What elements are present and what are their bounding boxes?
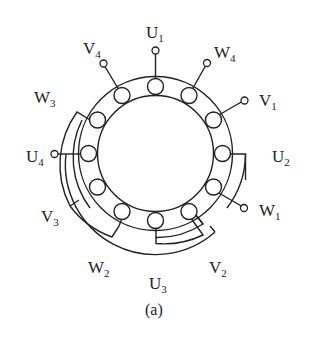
stator-winding-diagram: U1 W4 V1 U2 W1 V2 U3 W2 V3 U4 W3 V4 (a): [0, 0, 312, 337]
label-w3: W3: [34, 88, 56, 109]
terminal-node-v4: [100, 60, 107, 67]
stator-slots: [81, 79, 231, 229]
label-v4: V4: [83, 39, 101, 60]
label-v1: V1: [259, 91, 277, 112]
slot-3: [206, 112, 222, 128]
slot-12: [114, 88, 130, 104]
slot-1: [148, 79, 164, 95]
terminal-node-w1: [241, 205, 248, 212]
outer-ring: [79, 77, 233, 231]
slot-7: [148, 213, 164, 229]
label-w2: W2: [88, 258, 110, 279]
label-v3: V3: [41, 207, 59, 228]
slot-5: [206, 179, 222, 195]
label-w1: W1: [259, 201, 281, 222]
slot-8: [114, 204, 130, 220]
slot-9: [90, 179, 106, 195]
label-u1: U1: [146, 23, 164, 44]
terminal-node-u1: [152, 47, 159, 54]
terminal-node-u4: [51, 151, 58, 158]
slot-4: [215, 146, 231, 162]
label-u3: U3: [149, 274, 167, 295]
label-u2: U2: [272, 147, 290, 168]
label-w4: W4: [214, 43, 236, 64]
slot-11: [90, 112, 106, 128]
label-v2: V2: [209, 258, 227, 279]
slot-10: [81, 146, 97, 162]
terminal-node-w4: [204, 60, 211, 67]
slot-2: [181, 88, 197, 104]
figure-caption: (a): [145, 301, 163, 319]
slot-6: [181, 204, 197, 220]
label-u4: U4: [26, 147, 44, 168]
terminal-node-v1: [241, 97, 248, 104]
inner-ring: [98, 96, 214, 212]
